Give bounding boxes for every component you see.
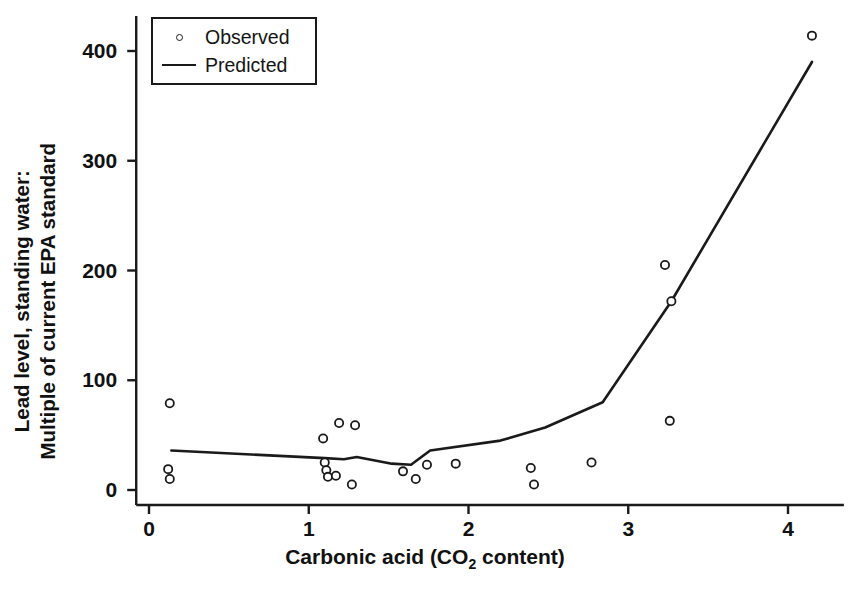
y-tick-label: 400 [60,39,117,63]
x-axis-label-prefix: Carbonic acid (CO [285,545,468,568]
legend-label-predicted: Predicted [205,54,287,77]
observed-data-point [423,461,431,469]
observed-data-point [527,464,535,472]
x-tick-label: 0 [143,517,155,541]
observed-data-point [412,475,420,483]
y-axis-label-line1: Lead level, standing water: [9,39,35,563]
observed-points-series [164,32,816,489]
observed-data-point [332,472,340,480]
line-segment-icon [153,64,205,67]
observed-data-point [399,467,407,475]
y-tick-label: 300 [60,149,117,173]
legend-label-observed: Observed [205,26,290,49]
x-axis-label: Carbonic acid (CO2 content) [0,545,850,572]
plot-area [0,0,850,590]
y-axis-label: Lead level, standing water: Multiple of … [9,39,61,563]
y-tick-label: 200 [60,259,117,283]
legend-item-predicted: Predicted [153,51,319,79]
observed-data-point [348,480,356,488]
observed-data-point [808,32,816,40]
open-circle-icon [153,34,205,41]
observed-data-point [667,297,675,305]
observed-data-point [164,465,172,473]
observed-data-point [324,473,332,481]
axes-lines [127,16,844,514]
observed-data-point [666,417,674,425]
observed-data-point [661,261,669,269]
x-axis-label-subscript: 2 [468,556,476,572]
observed-data-point [452,460,460,468]
observed-data-point [351,421,359,429]
y-axis-label-line2: Multiple of current EPA standard [35,39,61,563]
observed-data-point [166,399,174,407]
predicted-line-series [171,62,812,465]
observed-data-point [587,458,595,466]
x-tick-label: 1 [303,517,315,541]
x-tick-label: 2 [463,517,475,541]
y-tick-label: 0 [60,478,117,502]
chart-legend: Observed Predicted [151,17,317,85]
observed-data-point [530,480,538,488]
y-tick-label: 100 [60,368,117,392]
x-tick-label: 4 [782,517,794,541]
chart-figure: Lead level, standing water: Multiple of … [0,0,850,590]
observed-data-point [335,419,343,427]
x-axis-label-suffix: content) [476,545,565,568]
observed-data-point [319,434,327,442]
observed-data-point [166,475,174,483]
x-tick-label: 3 [622,517,634,541]
legend-item-observed: Observed [153,23,319,51]
